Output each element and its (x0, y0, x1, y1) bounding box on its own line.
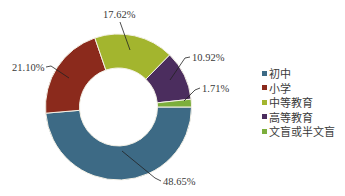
chart-legend: 初中 小学 中等教育 高等教育 文盲或半文盲 (262, 66, 335, 139)
slice-label-higher: 10.92% (192, 52, 224, 63)
slice-label-primary: 21.10% (12, 62, 44, 73)
legend-item-illiterate: 文盲或半文盲 (262, 124, 335, 139)
legend-item-junior-high: 初中 (262, 66, 335, 81)
legend-item-primary: 小学 (262, 81, 335, 96)
slice-junior-high (46, 107, 192, 180)
legend-label-illiterate: 文盲或半文盲 (269, 123, 335, 139)
legend-swatch-higher (262, 114, 267, 119)
slice-primary (46, 38, 106, 113)
legend-item-secondary: 中等教育 (262, 95, 335, 110)
legend-item-higher: 高等教育 (262, 110, 335, 125)
slice-label-junior-high: 48.65% (163, 176, 195, 187)
slice-label-illiterate: 1.71% (202, 83, 229, 94)
legend-swatch-secondary (262, 100, 267, 105)
legend-swatch-junior-high (262, 71, 267, 76)
legend-swatch-primary (262, 85, 267, 90)
slice-label-secondary: 17.62% (103, 9, 135, 20)
donut-slices (46, 34, 192, 180)
legend-swatch-illiterate (262, 129, 267, 134)
